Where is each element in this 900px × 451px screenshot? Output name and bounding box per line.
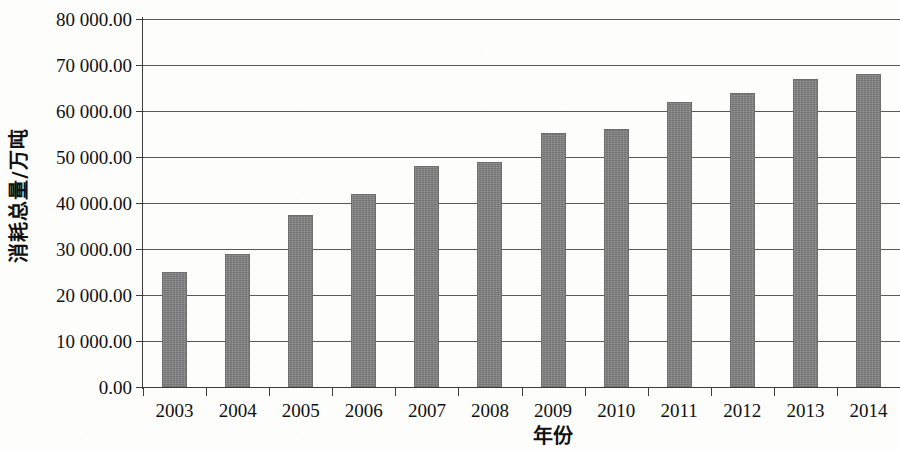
x-tick-label: 2004 [219, 400, 257, 422]
y-tick-mark [136, 111, 144, 112]
y-tick-mark [136, 65, 144, 66]
x-tick-mark [837, 387, 838, 396]
x-tick-mark [458, 387, 459, 396]
x-tick-label: 2005 [282, 400, 320, 422]
bar[interactable] [351, 194, 376, 387]
y-tick-label: 10 000.00 [56, 332, 132, 351]
bar[interactable] [414, 166, 439, 387]
y-tick-mark [136, 387, 144, 388]
x-tick-label: 2008 [471, 400, 509, 422]
x-axis: 年份 2003200420052006200720082009201020112… [143, 387, 900, 451]
x-axis-title-label: 年份 [533, 425, 573, 447]
bar[interactable] [288, 215, 313, 388]
x-tick-label: 2012 [723, 400, 761, 422]
bar[interactable] [793, 79, 818, 387]
x-tick-label: 2007 [408, 400, 446, 422]
bar-chart-figure: 消耗总量/万吨 0.0010 000.0020 000.0030 000.004… [0, 0, 900, 451]
y-tick-mark [136, 19, 144, 20]
x-tick-mark [774, 387, 775, 396]
x-tick-label: 2011 [661, 400, 698, 422]
x-tick-label: 2014 [849, 400, 887, 422]
y-tick-mark [136, 203, 144, 204]
y-axis-title: 消耗总量/万吨 [0, 0, 34, 390]
bar[interactable] [541, 133, 566, 387]
x-tick-mark [522, 387, 523, 396]
bar[interactable] [162, 272, 187, 387]
y-tick-mark [136, 157, 144, 158]
x-tick-mark [395, 387, 396, 396]
bar[interactable] [604, 129, 629, 387]
x-tick-mark [143, 387, 144, 396]
y-tick-label: 80 000.00 [56, 10, 132, 29]
x-tick-label: 2006 [345, 400, 383, 422]
x-tick-label: 2010 [597, 400, 635, 422]
x-tick-label: 2013 [786, 400, 824, 422]
x-tick-label: 2003 [156, 400, 194, 422]
bar-series [143, 19, 900, 387]
x-tick-mark [332, 387, 333, 396]
y-tick-mark [136, 295, 144, 296]
y-tick-label: 50 000.00 [56, 148, 132, 167]
x-tick-mark [711, 387, 712, 396]
bar[interactable] [225, 254, 250, 387]
y-tick-label: 0.00 [99, 378, 132, 397]
y-axis-title-label: 消耗总量/万吨 [3, 128, 32, 262]
x-tick-mark [585, 387, 586, 396]
y-tick-mark [136, 341, 144, 342]
y-tick-label: 40 000.00 [56, 194, 132, 213]
y-axis-tick-labels: 0.0010 000.0020 000.0030 000.0040 000.00… [34, 0, 138, 400]
x-tick-mark [206, 387, 207, 396]
x-tick-label: 2009 [534, 400, 572, 422]
bar[interactable] [477, 162, 502, 387]
x-tick-mark [648, 387, 649, 396]
y-tick-label: 70 000.00 [56, 56, 132, 75]
y-tick-label: 20 000.00 [56, 286, 132, 305]
bar[interactable] [730, 93, 755, 387]
bar[interactable] [667, 102, 692, 387]
y-tick-label: 60 000.00 [56, 102, 132, 121]
y-tick-label: 30 000.00 [56, 240, 132, 259]
y-tick-mark [136, 249, 144, 250]
x-tick-mark [269, 387, 270, 396]
bar[interactable] [856, 74, 881, 387]
